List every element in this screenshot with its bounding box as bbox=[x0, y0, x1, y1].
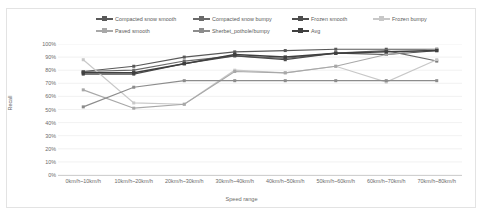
y-axis-tick-label: 20% bbox=[30, 146, 56, 152]
data-point-marker bbox=[82, 105, 85, 108]
legend-item-label: Frozen bumpy bbox=[392, 15, 427, 23]
data-point-marker bbox=[435, 79, 438, 82]
y-axis-tick-label: 80% bbox=[30, 67, 56, 73]
legend-item-frozen-bumpy[interactable]: Frozen bumpy bbox=[373, 13, 427, 25]
x-axis-title: Speed range bbox=[0, 196, 483, 202]
legend-item-frozen-smooth[interactable]: Frozen smooth bbox=[292, 13, 347, 25]
data-point-marker bbox=[334, 65, 337, 68]
data-point-marker bbox=[183, 62, 186, 65]
legend-swatch-icon bbox=[373, 15, 390, 23]
legend-item-sherbet-pothole-bumpy[interactable]: Sherbet_pothole/bumpy bbox=[193, 25, 270, 37]
plot-svg bbox=[58, 44, 462, 175]
y-axis-tick-labels: 0%10%20%30%40%50%60%70%80%90%100% bbox=[30, 44, 56, 175]
y-axis-tick-label: 40% bbox=[30, 120, 56, 126]
legend-row-1: Compacted snow smoothCompacted snow bump… bbox=[96, 13, 466, 25]
data-point-marker bbox=[132, 107, 135, 110]
data-point-marker bbox=[82, 71, 85, 74]
data-point-marker bbox=[284, 49, 287, 52]
data-point-marker bbox=[284, 79, 287, 82]
y-axis-tick-label: 0% bbox=[30, 172, 56, 178]
y-axis-tick-label: 50% bbox=[30, 107, 56, 113]
x-axis-tick-label: 70km/h~80km/h bbox=[417, 178, 456, 184]
chart-legend: Compacted snow smoothCompacted snow bump… bbox=[96, 13, 466, 39]
data-point-marker bbox=[334, 51, 337, 54]
legend-item-paved-smooth[interactable]: Paved smooth bbox=[96, 25, 150, 37]
y-axis-tick-label: 90% bbox=[30, 54, 56, 60]
legend-swatch-icon bbox=[96, 15, 113, 23]
data-point-marker bbox=[284, 71, 287, 74]
legend-item-label: Frozen smooth bbox=[311, 15, 347, 23]
legend-swatch-icon bbox=[193, 15, 210, 23]
legend-row-2: Paved smoothSherbet_pothole/bumpyAvg bbox=[96, 25, 466, 37]
data-point-marker bbox=[132, 101, 135, 104]
legend-swatch-icon bbox=[96, 27, 113, 35]
x-axis-line bbox=[58, 175, 462, 176]
y-axis-title: Recall bbox=[7, 83, 13, 123]
data-point-marker bbox=[233, 79, 236, 82]
recall-vs-speed-range-line-chart: Compacted snow smoothCompacted snow bump… bbox=[0, 0, 483, 216]
y-axis-tick-label: 10% bbox=[30, 159, 56, 165]
legend-item-compacted-snow-smooth[interactable]: Compacted snow smooth bbox=[96, 13, 176, 25]
x-axis-tick-label: 10km/h~20km/h bbox=[114, 178, 153, 184]
data-point-marker bbox=[435, 58, 438, 61]
data-point-marker bbox=[334, 79, 337, 82]
legend-item-label: Compacted snow bumpy bbox=[212, 15, 272, 23]
legend-item-label: Avg bbox=[311, 27, 320, 35]
data-point-marker bbox=[233, 70, 236, 73]
x-axis-tick-label: 50km/h~60km/h bbox=[316, 178, 355, 184]
data-point-marker bbox=[82, 58, 85, 61]
plot-area bbox=[58, 44, 462, 175]
y-axis-tick-label: 70% bbox=[30, 80, 56, 86]
data-point-marker bbox=[334, 48, 337, 51]
legend-item-label: Compacted snow smooth bbox=[115, 15, 176, 23]
legend-swatch-icon bbox=[292, 27, 309, 35]
data-point-marker bbox=[183, 103, 186, 106]
legend-item-avg[interactable]: Avg bbox=[292, 25, 320, 37]
data-point-marker bbox=[183, 79, 186, 82]
x-axis-tick-label: 0km/h~10km/h bbox=[65, 178, 101, 184]
legend-swatch-icon bbox=[292, 15, 309, 23]
y-axis-tick-label: 30% bbox=[30, 133, 56, 139]
x-axis-tick-label: 60km/h~70km/h bbox=[367, 178, 406, 184]
data-point-marker bbox=[132, 71, 135, 74]
series-line bbox=[83, 51, 437, 72]
x-axis-tick-label: 40km/h~50km/h bbox=[266, 178, 305, 184]
data-point-marker bbox=[132, 86, 135, 89]
x-axis-tick-labels: 0km/h~10km/h10km/h~20km/h20km/h~30km/h30… bbox=[58, 178, 462, 190]
data-point-marker bbox=[132, 65, 135, 68]
x-axis-tick-label: 20km/h~30km/h bbox=[165, 178, 204, 184]
data-point-marker bbox=[82, 88, 85, 91]
y-axis-tick-label: 60% bbox=[30, 93, 56, 99]
data-point-marker bbox=[233, 53, 236, 56]
legend-item-compacted-snow-bumpy[interactable]: Compacted snow bumpy bbox=[193, 13, 272, 25]
data-point-marker bbox=[435, 49, 438, 52]
x-axis-tick-label: 30km/h~40km/h bbox=[215, 178, 254, 184]
legend-item-label: Sherbet_pothole/bumpy bbox=[212, 27, 270, 35]
y-axis-tick-label: 100% bbox=[30, 41, 56, 47]
legend-item-label: Paved smooth bbox=[115, 27, 150, 35]
data-point-marker bbox=[385, 50, 388, 53]
data-point-marker bbox=[385, 79, 388, 82]
legend-swatch-icon bbox=[193, 27, 210, 35]
data-point-marker bbox=[183, 56, 186, 59]
data-point-marker bbox=[284, 55, 287, 58]
